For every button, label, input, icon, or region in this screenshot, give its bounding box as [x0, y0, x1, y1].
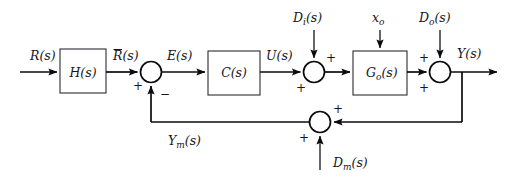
label-output-disturbance: Do(s) [418, 10, 451, 27]
sign-input-dist-plus: + [326, 51, 336, 65]
label-Do-base: D [418, 10, 429, 25]
sign-output-dist-plus: + [419, 51, 429, 65]
label-xo-sub: o [379, 17, 385, 27]
sign-measurement-bottom-plus: + [299, 131, 309, 145]
svg-text:Do(s): Do(s) [418, 10, 451, 27]
summing-junction-output-disturbance [430, 62, 451, 83]
block-label-Go-tail: (s) [381, 65, 397, 80]
label-xo-base: x [372, 10, 379, 25]
sign-measurement-right-plus: + [333, 102, 343, 116]
summing-junction-error [141, 62, 162, 83]
label-Ym-tail: (s) [185, 133, 201, 148]
svg-text:xo: xo [372, 10, 385, 27]
label-Ym-sub: m [176, 140, 185, 150]
summing-junction-measurement [310, 112, 331, 133]
label-Di-tail: (s) [306, 10, 322, 25]
svg-text:Go(s): Go(s) [366, 65, 398, 82]
label-output: Y(s) [457, 46, 482, 61]
svg-text:Dm(s): Dm(s) [332, 155, 368, 172]
summing-junction-input-disturbance [304, 62, 325, 83]
sign-error-minus: − [160, 87, 170, 101]
label-filtered-reference-base: R [112, 48, 122, 63]
block-label-H: H(s) [68, 65, 96, 80]
svg-text:Ym(s): Ym(s) [168, 133, 201, 150]
label-measurement-disturbance: Dm(s) [332, 155, 368, 172]
block-label-Go: Go(s) [366, 65, 398, 82]
label-Dm-tail: (s) [352, 155, 368, 170]
label-filtered-reference: R(s) [112, 48, 139, 63]
label-error: E(s) [166, 48, 192, 63]
label-Dm-base: D [332, 155, 343, 170]
block-label-C: C(s) [221, 65, 247, 80]
sign-error-plus: + [133, 79, 143, 93]
label-Di-base: D [292, 10, 303, 25]
svg-text:Di(s): Di(s) [292, 10, 322, 27]
label-measured-output: Ym(s) [168, 133, 201, 150]
label-reference: R(s) [29, 48, 56, 63]
svg-text:R(s): R(s) [112, 48, 139, 63]
label-initial-state: xo [372, 10, 385, 27]
label-filtered-reference-tail: (s) [122, 48, 138, 63]
block-diagram-canvas: R(s) R(s) E(s) U(s) Y(s) Di(s) xo [0, 0, 512, 179]
label-Do-tail: (s) [434, 10, 450, 25]
control-system-diagram: R(s) R(s) E(s) U(s) Y(s) Di(s) xo [0, 0, 512, 179]
sign-output-forward-plus: + [419, 81, 429, 95]
label-input-disturbance: Di(s) [292, 10, 322, 27]
label-control: U(s) [266, 48, 293, 63]
sign-input-forward-plus: + [296, 81, 306, 95]
label-Dm-sub: m [343, 162, 352, 172]
block-label-Go-base: G [366, 65, 376, 80]
